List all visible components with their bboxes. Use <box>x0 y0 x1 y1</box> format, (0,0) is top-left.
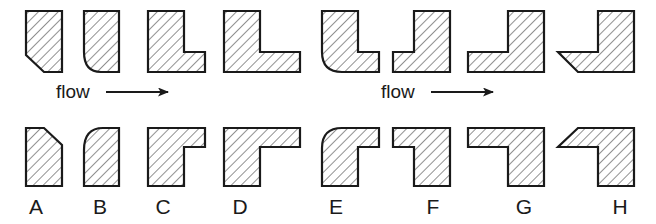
bottom-row <box>26 128 634 186</box>
label-A: A <box>29 195 43 218</box>
flow-label-left: flow <box>56 81 90 102</box>
label-E: E <box>329 195 343 218</box>
label-F: F <box>427 195 440 218</box>
shape-bottom-B-filleted-bar <box>84 128 119 186</box>
top-row <box>26 11 634 72</box>
label-G: G <box>516 195 532 218</box>
label-C: C <box>155 195 170 218</box>
flow-label-right: flow <box>381 81 415 102</box>
label-B: B <box>93 195 107 218</box>
label-H: H <box>612 195 627 218</box>
shape-top-2-filleted-bar <box>84 11 119 72</box>
figure-canvas: flow flow <box>0 0 656 224</box>
label-D: D <box>232 195 247 218</box>
shape-comparison-figure: flow flow <box>0 0 656 224</box>
